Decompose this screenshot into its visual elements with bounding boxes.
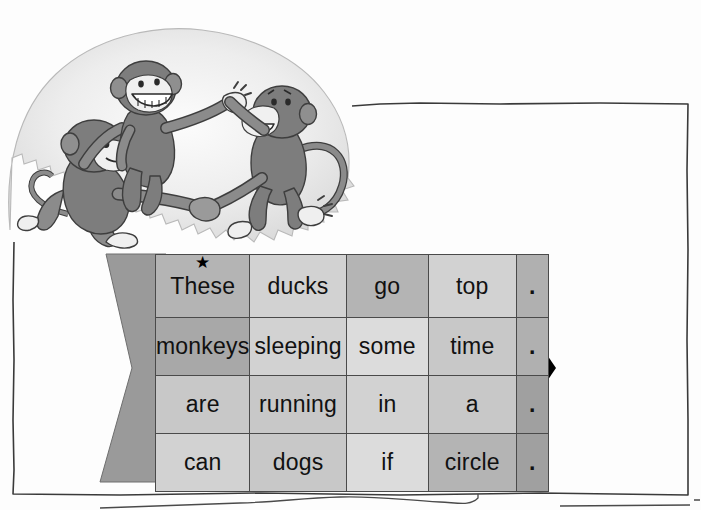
word-cell[interactable]: monkeys (156, 318, 250, 376)
word-label: top (429, 255, 516, 317)
word-cell[interactable]: go (346, 255, 428, 318)
word-label: a (429, 376, 516, 433)
word-cell[interactable]: a (429, 376, 517, 434)
word-label: can (156, 434, 249, 491)
word-label: monkeys (156, 318, 249, 375)
word-cell[interactable]: sleeping (250, 318, 346, 376)
period-label: . (517, 255, 548, 317)
three-monkeys-illustration (2, 18, 362, 268)
word-label: go (347, 255, 428, 317)
scan-edge-artifact (0, 492, 701, 510)
table-row: ★Theseducksgotop. (156, 255, 549, 318)
period-cell[interactable]: . (516, 376, 548, 434)
word-label: ducks (250, 255, 345, 317)
period-cell[interactable]: . (516, 434, 548, 492)
period-label: . (517, 434, 548, 491)
period-label: . (517, 376, 548, 433)
word-label: if (347, 434, 428, 491)
period-cell[interactable]: . (516, 255, 548, 318)
word-cell[interactable]: in (346, 376, 428, 434)
table-row: monkeyssleepingsometime. (156, 318, 549, 376)
word-cell[interactable]: top (429, 255, 517, 318)
word-label: sleeping (250, 318, 345, 375)
example-star-icon: ★ (195, 254, 210, 271)
table-row: candogsifcircle. (156, 434, 549, 492)
word-cell[interactable]: time (429, 318, 517, 376)
word-cell[interactable]: can (156, 434, 250, 492)
table-row: arerunningina. (156, 376, 549, 434)
word-label: running (250, 376, 345, 433)
word-cell[interactable]: are (156, 376, 250, 434)
word-cell[interactable]: dogs (250, 434, 346, 492)
period-label: . (517, 318, 548, 375)
word-choice-table[interactable]: ★Theseducksgotop.monkeyssleepingsometime… (155, 254, 549, 492)
word-cell[interactable]: ducks (250, 255, 346, 318)
word-label: time (429, 318, 516, 375)
word-label: some (347, 318, 428, 375)
word-cell[interactable]: circle (429, 434, 517, 492)
word-label: in (347, 376, 428, 433)
worksheet-page: ★Theseducksgotop.monkeyssleepingsometime… (0, 0, 701, 510)
word-label: circle (429, 434, 516, 491)
word-cell[interactable]: if (346, 434, 428, 492)
word-cell[interactable]: running (250, 376, 346, 434)
word-cell[interactable]: ★These (156, 255, 250, 318)
word-label: are (156, 376, 249, 433)
word-cell[interactable]: some (346, 318, 428, 376)
period-cell[interactable]: . (516, 318, 548, 376)
word-label: dogs (250, 434, 345, 491)
